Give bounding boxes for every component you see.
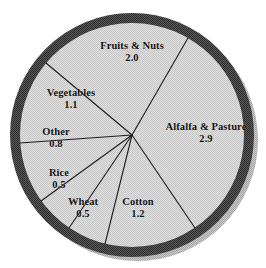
- slice-label-name: Fruits & Nuts: [77, 40, 187, 52]
- slice-label-name: Vegetables: [25, 87, 117, 99]
- pie-chart-figure: Fruits & Nuts 2.0 Alfalfa & Pasture 2.9 …: [0, 0, 266, 268]
- slice-label-value: 2.0: [77, 52, 187, 64]
- slice-label-value: 0.5: [26, 179, 92, 191]
- slice-label-cotton: Cotton 1.2: [102, 196, 174, 219]
- slice-label-other: Other 0.8: [20, 126, 92, 149]
- slice-label-value: 0.8: [20, 138, 92, 150]
- slice-label-name: Other: [20, 126, 92, 138]
- slice-label-value: 2.9: [150, 133, 262, 145]
- slice-label-name: Cotton: [102, 196, 174, 208]
- slice-label-value: 1.1: [25, 99, 117, 111]
- slice-label-rice: Rice 0.5: [26, 167, 92, 190]
- slice-label-value: 1.2: [102, 208, 174, 220]
- slice-label-vegetables: Vegetables 1.1: [25, 87, 117, 110]
- slice-label-name: Rice: [26, 167, 92, 179]
- slice-label-fruits-and-nuts: Fruits & Nuts 2.0: [77, 40, 187, 63]
- slice-label-name: Alfalfa & Pasture: [150, 121, 262, 133]
- slice-label-alfalfa-and-pasture: Alfalfa & Pasture 2.9: [150, 121, 262, 144]
